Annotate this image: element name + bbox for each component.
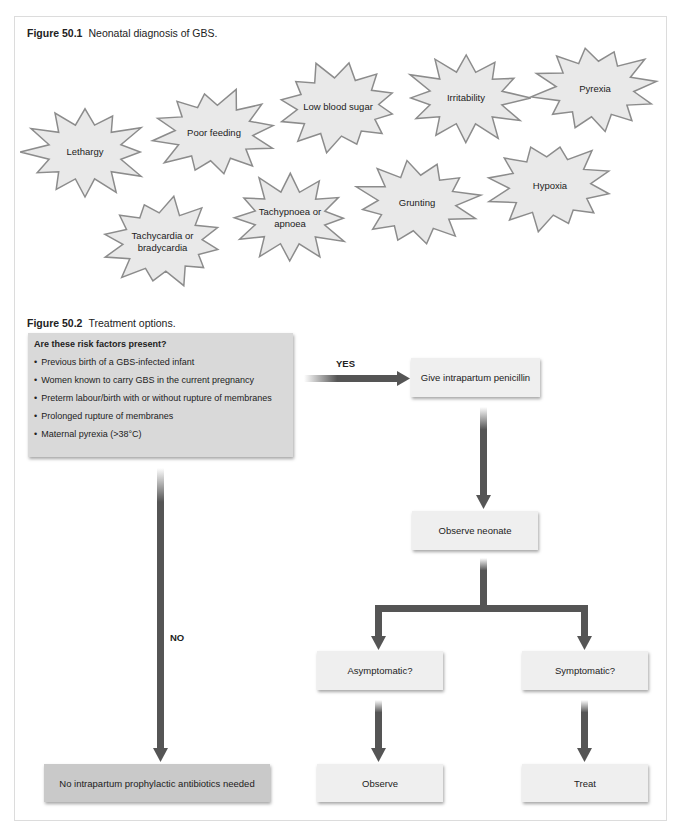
- yes-arrow: [304, 371, 410, 386]
- arrow-to-observe-neonate: [476, 407, 491, 509]
- node-give-penicillin: Give intrapartum penicillin: [411, 358, 540, 397]
- node-label: No intrapartum prophylactic antibiotics …: [59, 778, 254, 789]
- node-observe-neonate: Observe neonate: [412, 511, 538, 550]
- node-no-antibiotics: No intrapartum prophylactic antibiotics …: [44, 764, 270, 802]
- arrow-to-treat: [577, 700, 592, 762]
- node-label: Observe: [362, 778, 398, 789]
- node-symptomatic: Symptomatic?: [522, 651, 648, 690]
- node-label: Treat: [574, 778, 596, 789]
- no-label: NO: [170, 632, 184, 643]
- node-label: Asymptomatic?: [348, 665, 413, 676]
- arrow-split: [371, 558, 592, 650]
- node-observe: Observe: [317, 764, 443, 802]
- node-label: Observe neonate: [439, 525, 512, 536]
- node-treat: Treat: [522, 764, 648, 802]
- node-label: Give intrapartum penicillin: [421, 372, 530, 383]
- flow-arrows: [0, 0, 678, 830]
- yes-label: YES: [336, 358, 355, 369]
- node-asymptomatic: Asymptomatic?: [317, 651, 443, 690]
- arrow-to-observe: [371, 700, 386, 762]
- no-arrow: [153, 468, 168, 762]
- node-label: Symptomatic?: [555, 665, 615, 676]
